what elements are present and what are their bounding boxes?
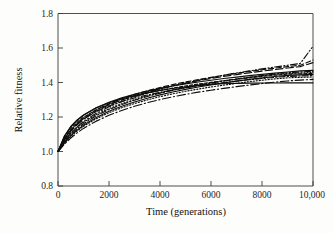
y-tick-label-5: 1.8 (41, 9, 53, 19)
x-tick-label-2: 4000 (151, 190, 170, 200)
x-tick-marks (58, 181, 313, 186)
plot-axes (58, 14, 313, 187)
x-tick-labels: 0 2000 4000 6000 8000 10,000 (56, 190, 326, 200)
x-tick-label-1: 2000 (100, 190, 119, 200)
y-tick-labels: 0.8 1.0 1.2 1.4 1.6 1.8 (41, 9, 53, 192)
figure-container: 0.8 1.0 1.2 1.4 1.6 1.8 0 2000 4000 6000… (0, 0, 333, 233)
data-curve-7 (58, 74, 313, 152)
x-tick-label-0: 0 (56, 190, 61, 200)
data-curves-group (58, 46, 313, 151)
y-tick-label-3: 1.4 (41, 78, 53, 88)
x-tick-label-5: 10,000 (299, 190, 325, 200)
x-axis-title: Time (generations) (146, 206, 226, 218)
y-axis-title: Relative fitness (13, 67, 24, 132)
x-tick-label-3: 6000 (202, 190, 221, 200)
y-tick-label-1: 1.0 (41, 147, 53, 157)
y-tick-label-0: 0.8 (41, 181, 53, 191)
y-tick-label-4: 1.6 (41, 43, 53, 53)
data-curve-12 (58, 79, 313, 151)
x-tick-label-4: 8000 (253, 190, 272, 200)
y-tick-label-2: 1.2 (41, 112, 53, 122)
y-tick-marks (58, 14, 63, 187)
chart-plot-svg: 0.8 1.0 1.2 1.4 1.6 1.8 0 2000 4000 6000… (0, 0, 333, 233)
data-curve-1 (58, 46, 313, 151)
